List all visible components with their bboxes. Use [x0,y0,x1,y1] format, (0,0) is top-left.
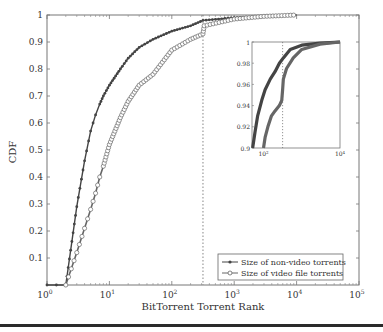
y-tick-label: 0.6 [29,118,44,128]
inset-x-tick-label: 102 [258,150,269,158]
x-tick-label: 102 [162,288,177,300]
y-axis-label: CDF [7,141,18,164]
y-tick-label: 0.1 [29,253,43,263]
inset-y-tick-label: 0.98 [237,60,251,67]
legend-dot-marker-icon [228,260,231,263]
legend: Size of non-video torrents Size of video… [218,254,346,280]
inset-y-tick-label: 1 [246,39,250,46]
cdf-chart: 0.10.20.30.40.50.60.70.80.91 10010110210… [0,0,383,332]
x-tick-label: 101 [100,288,115,300]
y-tick-label: 0.7 [29,91,44,101]
x-tick-label: 100 [37,288,52,300]
inset-y-tick-label: 0.9 [240,145,250,152]
x-axis-label: BitTorrent Torrent Rank [142,301,266,312]
y-tick-label: 1 [37,10,43,20]
y-tick-label: 0.8 [29,64,44,74]
y-tick-label: 0.5 [29,145,44,155]
x-tick-label: 105 [349,288,364,300]
legend-label-nonvideo: Size of non-video torrents [241,258,346,267]
legend-label-video: Size of video file torrents [241,269,343,278]
y-tick-label: 0.4 [29,172,44,182]
page-bottom-rule [0,324,383,327]
legend-circle-marker-icon [228,271,232,275]
x-tick-label: 103 [225,288,240,300]
x-tick-label: 104 [287,288,302,300]
y-tick-label: 0.2 [29,226,43,236]
inset-y-tick-label: 0.94 [237,102,251,109]
y-tick-label: 0.9 [29,37,44,47]
zoom-inset: 0.90.920.940.960.981102104 [237,39,346,158]
y-tick-label: 0.3 [29,199,44,209]
inset-x-tick-label: 104 [335,150,346,158]
inset-y-tick-label: 0.96 [237,81,251,88]
inset-y-tick-label: 0.92 [237,123,251,130]
